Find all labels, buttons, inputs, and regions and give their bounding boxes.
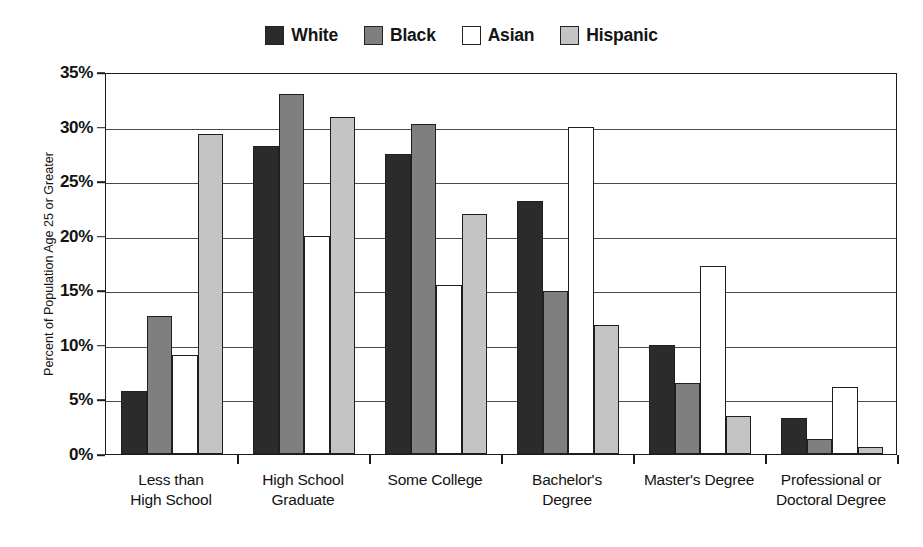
bar-asian-4[interactable] xyxy=(700,266,726,454)
y-tick-mark xyxy=(97,72,105,74)
bar-hispanic-2[interactable] xyxy=(462,214,488,454)
bar-white-1[interactable] xyxy=(253,146,279,454)
legend-label: White xyxy=(291,27,338,45)
bar-hispanic-3[interactable] xyxy=(594,325,620,454)
bar-asian-0[interactable] xyxy=(172,355,198,454)
x-category-label-line: Graduate xyxy=(223,490,383,510)
y-tick-label: 30% xyxy=(37,118,93,138)
plot-area xyxy=(105,73,897,455)
bar-white-0[interactable] xyxy=(121,391,147,454)
y-tick-mark xyxy=(97,236,105,238)
bar-black-1[interactable] xyxy=(279,94,305,454)
legend-swatch-hispanic xyxy=(560,26,579,45)
y-tick-label: 20% xyxy=(37,227,93,247)
x-tick-mark xyxy=(237,455,239,464)
bar-hispanic-1[interactable] xyxy=(330,117,356,454)
legend-item-white[interactable]: White xyxy=(265,26,338,45)
bar-white-2[interactable] xyxy=(385,154,411,454)
legend-item-asian[interactable]: Asian xyxy=(462,26,535,45)
bar-hispanic-0[interactable] xyxy=(198,134,224,454)
bar-chart: WhiteBlackAsianHispanic Percent of Popul… xyxy=(0,0,923,547)
bar-asian-3[interactable] xyxy=(568,127,594,454)
legend-label: Asian xyxy=(488,27,535,45)
legend-item-hispanic[interactable]: Hispanic xyxy=(560,26,657,45)
bar-group xyxy=(370,74,502,454)
x-category-label-line: Doctoral Degree xyxy=(751,490,911,510)
x-category-label-5: Professional orDoctoral Degree xyxy=(751,470,911,510)
y-tick-label: 0% xyxy=(37,445,93,465)
y-tick-mark xyxy=(97,127,105,129)
x-tick-mark xyxy=(765,455,767,464)
bar-white-3[interactable] xyxy=(517,201,543,454)
y-tick-mark xyxy=(97,400,105,402)
y-tick-mark xyxy=(97,290,105,292)
legend-item-black[interactable]: Black xyxy=(364,26,436,45)
bar-group xyxy=(634,74,766,454)
x-tick-mark xyxy=(501,455,503,464)
x-tick-mark xyxy=(369,455,371,464)
page-edge-smudge xyxy=(0,541,923,547)
bar-group xyxy=(502,74,634,454)
chart-legend: WhiteBlackAsianHispanic xyxy=(0,26,923,45)
y-tick-label: 15% xyxy=(37,281,93,301)
legend-swatch-white xyxy=(265,26,284,45)
bar-hispanic-5[interactable] xyxy=(858,447,884,454)
bar-group xyxy=(238,74,370,454)
bar-white-4[interactable] xyxy=(649,345,675,454)
bar-group xyxy=(106,74,238,454)
bar-group xyxy=(766,74,898,454)
bar-asian-1[interactable] xyxy=(304,236,330,454)
bar-black-3[interactable] xyxy=(543,291,569,454)
y-tick-mark xyxy=(97,454,105,456)
y-tick-mark xyxy=(97,181,105,183)
legend-label: Black xyxy=(390,27,436,45)
y-tick-label: 35% xyxy=(37,63,93,83)
bar-white-5[interactable] xyxy=(781,418,807,454)
y-tick-label: 25% xyxy=(37,172,93,192)
x-tick-mark xyxy=(633,455,635,464)
legend-swatch-black xyxy=(364,26,383,45)
x-tick-mark xyxy=(897,455,899,464)
bar-asian-5[interactable] xyxy=(832,387,858,454)
legend-swatch-asian xyxy=(462,26,481,45)
bar-black-4[interactable] xyxy=(675,383,701,454)
y-tick-mark xyxy=(97,345,105,347)
bar-black-2[interactable] xyxy=(411,124,437,454)
bar-black-5[interactable] xyxy=(807,439,833,454)
x-category-label-line: Degree xyxy=(487,490,647,510)
y-tick-label: 5% xyxy=(37,390,93,410)
legend-label: Hispanic xyxy=(586,27,657,45)
x-category-label-line: Professional or xyxy=(751,470,911,490)
bar-asian-2[interactable] xyxy=(436,285,462,454)
y-tick-label: 10% xyxy=(37,336,93,356)
bar-hispanic-4[interactable] xyxy=(726,416,752,454)
bar-black-0[interactable] xyxy=(147,316,173,454)
